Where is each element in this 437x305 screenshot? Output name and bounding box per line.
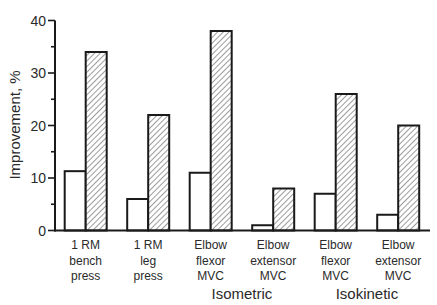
y-tick-label: 0: [38, 223, 46, 239]
category-label-line: MVC: [197, 269, 224, 283]
hatched-bar: [211, 31, 232, 231]
y-axis: 010203040: [30, 13, 55, 239]
category-label-line: 1 RM: [71, 238, 100, 252]
bars: [65, 31, 420, 231]
open-bar: [315, 194, 336, 231]
category-label-line: flexor: [321, 254, 350, 268]
y-axis-title: Improvement, %: [6, 70, 23, 179]
category-label: ElbowflexorMVC: [319, 238, 352, 283]
y-tick-label: 40: [30, 13, 46, 29]
category-label-line: bench: [69, 254, 102, 268]
hatched-bar: [398, 126, 419, 231]
y-tick-label: 20: [30, 118, 46, 134]
category-label: ElbowflexorMVC: [194, 238, 227, 283]
open-bar: [190, 173, 211, 231]
hatched-bar: [86, 52, 107, 231]
category-label: ElbowextensorMVC: [375, 238, 421, 283]
y-axis-label: Improvement, %: [6, 70, 23, 179]
category-label-line: flexor: [196, 254, 225, 268]
y-tick-label: 10: [30, 170, 46, 186]
category-label-line: Elbow: [194, 238, 227, 252]
hatched-bar: [273, 189, 294, 231]
hatched-bar: [148, 115, 169, 231]
category-label-line: MVC: [260, 269, 287, 283]
bar-chart: 010203040 Improvement, % 1 RMbenchpress1…: [0, 0, 437, 305]
category-label-line: leg: [140, 254, 156, 268]
open-bar: [127, 199, 148, 231]
category-label-line: Elbow: [257, 238, 290, 252]
group-label: Isometric: [212, 285, 273, 302]
hatched-bar: [336, 94, 357, 231]
category-label-line: MVC: [385, 269, 412, 283]
category-label-line: MVC: [322, 269, 349, 283]
category-label-line: 1 RM: [134, 238, 163, 252]
category-label-line: extensor: [250, 254, 296, 268]
group-label: Isokinetic: [336, 285, 399, 302]
open-bar: [65, 171, 86, 230]
category-labels: 1 RMbenchpress1 RMlegpressElbowflexorMVC…: [69, 238, 421, 283]
y-tick-label: 30: [30, 65, 46, 81]
category-label: 1 RMlegpress: [134, 238, 163, 283]
open-bar: [377, 215, 398, 231]
group-labels: IsometricIsokinetic: [212, 285, 399, 302]
category-label: ElbowextensorMVC: [250, 238, 296, 283]
category-label-line: extensor: [375, 254, 421, 268]
category-label-line: Elbow: [382, 238, 415, 252]
category-label-line: Elbow: [319, 238, 352, 252]
category-label: 1 RMbenchpress: [69, 238, 102, 283]
category-label-line: press: [71, 269, 100, 283]
category-label-line: press: [134, 269, 163, 283]
